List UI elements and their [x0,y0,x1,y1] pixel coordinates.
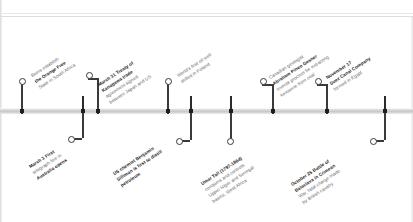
event-label: US chemist BenjaminSilliman is first to … [112,143,168,189]
event-axis-anchor [96,109,100,113]
header-rule-bottom [0,16,413,17]
event-marker-dot[interactable] [19,78,26,85]
event-stem [384,110,386,140]
event-axis-anchor [383,109,387,113]
event-marker-dot[interactable] [315,78,322,85]
event-marker-dot[interactable] [86,72,93,79]
event-label: Canadian geologistAbraham Pineo Gesnerin… [268,43,334,99]
event-marker-dot[interactable] [176,138,183,145]
event-stem [21,84,23,110]
header-rule-top [0,13,413,14]
event-stem [190,110,192,140]
event-axis-anchor [325,109,329,113]
event-stem [167,84,169,110]
event-stem [230,110,232,140]
event-marker-dot[interactable] [227,138,234,145]
event-label: October 25 Battle ofBalaclava in Crimean… [290,157,346,206]
event-stem [272,84,274,110]
event-label: November 17Suez Canal Companyformed in E… [325,50,376,93]
event-axis-anchor [20,109,24,113]
event-axis-anchor [166,109,170,113]
event-axis-anchor [189,109,193,113]
timeline-axis-highlight [0,108,413,109]
event-marker-dot[interactable] [68,136,75,143]
event-label: March 3 Firsttelegraph line inAustralia … [28,146,69,183]
event-stem [326,84,328,110]
event-axis-anchor [81,109,85,113]
event-label: Boers establishthe Orange FreeState in S… [30,51,77,92]
event-marker-dot[interactable] [260,78,267,85]
event-label: World's first oil welldrilled in Poland [176,52,217,85]
event-stem [82,110,84,138]
timeline-canvas: Boers establishthe Orange FreeState in S… [0,0,413,222]
event-marker-dot[interactable] [370,138,377,145]
event-label: March 31 Treaty ofKanagawa tradeagreemen… [97,56,153,106]
event-axis-anchor [271,109,275,113]
event-axis-anchor [229,109,233,113]
event-label: Umar Tall (1797-1864)conquers and contro… [200,153,259,205]
event-marker-dot[interactable] [165,78,172,85]
